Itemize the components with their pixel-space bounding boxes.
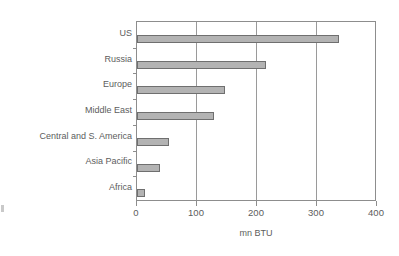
bar-us [137, 35, 339, 43]
bar-row [137, 73, 375, 99]
x-axis-label-300: 300 [296, 207, 336, 219]
bar-central-and-s-america [137, 138, 169, 146]
scan-artifact [1, 205, 4, 212]
bars-layer [137, 22, 375, 200]
bar-row [137, 22, 375, 48]
bar-row [137, 151, 375, 177]
y-axis-label-central-and-s-america: Central and S. America [0, 131, 132, 142]
bar-row [137, 125, 375, 151]
y-axis-label-middle-east: Middle East [0, 105, 132, 116]
bar-middle-east [137, 112, 214, 120]
bar-row [137, 99, 375, 125]
x-axis-label-100: 100 [176, 207, 216, 219]
x-tick-0 [136, 201, 137, 206]
bar-africa [137, 189, 145, 197]
plot-area [136, 21, 376, 201]
x-tick-400 [376, 201, 377, 206]
y-axis-labels: US Russia Europe Middle East Central and… [0, 21, 132, 201]
bar-row [137, 48, 375, 74]
x-tick-300 [316, 201, 317, 206]
bar-russia [137, 61, 266, 69]
y-axis-label-africa: Africa [0, 182, 132, 193]
bar-chart: US Russia Europe Middle East Central and… [0, 0, 399, 256]
y-axis-label-asia-pacific: Asia Pacific [0, 156, 132, 167]
x-tick-200 [256, 201, 257, 206]
y-axis-label-europe: Europe [0, 79, 132, 90]
bar-asia-pacific [137, 164, 160, 172]
x-axis-title: mn BTU [136, 228, 376, 239]
x-axis-label-400: 400 [356, 207, 396, 219]
x-tick-100 [196, 201, 197, 206]
bar-row [137, 176, 375, 202]
x-axis-label-200: 200 [236, 207, 276, 219]
bar-europe [137, 86, 225, 94]
y-axis-label-russia: Russia [0, 54, 132, 65]
x-axis-label-0: 0 [116, 207, 156, 219]
y-axis-label-us: US [0, 28, 132, 39]
